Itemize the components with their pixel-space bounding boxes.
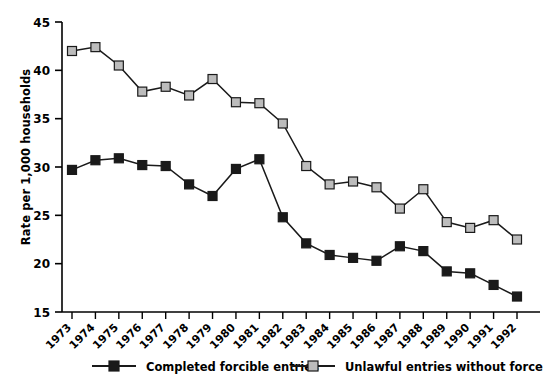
- legend-item-completed-forcible-entries[interactable]: Completed forcible entries: [92, 360, 319, 374]
- data-point-marker: [419, 185, 428, 194]
- x-axis-tick-label: 1990: [441, 321, 472, 352]
- series-unlawful-entries-without-force: [68, 43, 522, 244]
- x-axis-tick-label: 1982: [254, 321, 285, 352]
- data-point-marker: [489, 280, 498, 289]
- series-line: [72, 47, 517, 239]
- data-point-marker: [208, 75, 217, 84]
- x-axis-tick-label: 1983: [277, 321, 308, 352]
- y-axis-tick-label: 45: [33, 16, 50, 30]
- x-axis-tick-label: 1984: [301, 321, 332, 352]
- data-point-marker: [349, 177, 358, 186]
- x-axis-tick-label: 1976: [114, 321, 145, 352]
- data-point-marker: [231, 164, 240, 173]
- data-point-marker: [489, 216, 498, 225]
- data-point-marker: [302, 162, 311, 171]
- x-axis-tick-label: 1989: [418, 321, 449, 352]
- data-point-marker: [513, 235, 522, 244]
- line-chart-plot: 1520253035404519731974197519761977197819…: [0, 0, 549, 382]
- data-point-marker: [231, 98, 240, 107]
- data-point-marker: [395, 204, 404, 213]
- chart-container: Rate per 1,000 households 15202530354045…: [0, 0, 549, 382]
- legend-marker: [308, 361, 318, 371]
- data-point-marker: [372, 256, 381, 265]
- data-point-marker: [442, 267, 451, 276]
- data-point-marker: [419, 247, 428, 256]
- data-point-marker: [114, 61, 123, 70]
- data-point-marker: [185, 91, 194, 100]
- data-point-marker: [161, 82, 170, 91]
- data-point-marker: [68, 47, 77, 56]
- data-point-marker: [466, 223, 475, 232]
- y-axis-tick-label: 30: [33, 161, 50, 175]
- data-point-marker: [513, 292, 522, 301]
- x-axis-tick-label: 1979: [184, 321, 215, 352]
- data-point-marker: [255, 99, 264, 108]
- legend-item-unlawful-entries-without-force[interactable]: Unlawful entries without force: [291, 360, 543, 374]
- y-axis-tick-label: 15: [33, 306, 50, 320]
- x-axis-tick-label: 1974: [67, 321, 98, 352]
- data-point-marker: [91, 156, 100, 165]
- series-completed-forcible-entries: [68, 154, 522, 301]
- data-point-marker: [278, 119, 287, 128]
- data-point-marker: [255, 155, 264, 164]
- x-axis-tick-label: 1980: [207, 321, 238, 352]
- data-point-marker: [68, 165, 77, 174]
- x-axis-tick-label: 1978: [160, 321, 191, 352]
- x-axis-tick-label: 1975: [90, 321, 121, 352]
- x-axis-tick-label: 1977: [137, 321, 168, 352]
- x-axis-tick-label: 1988: [395, 321, 426, 352]
- data-point-marker: [325, 250, 334, 259]
- data-point-marker: [208, 192, 217, 201]
- data-point-marker: [466, 269, 475, 278]
- data-point-marker: [442, 218, 451, 227]
- x-axis-tick-label: 1992: [488, 321, 519, 352]
- data-point-marker: [114, 154, 123, 163]
- y-axis-tick-label: 35: [33, 112, 50, 126]
- legend-marker: [109, 361, 119, 371]
- x-axis-tick-label: 1991: [465, 321, 496, 352]
- y-axis-tick-label: 20: [33, 257, 50, 271]
- x-axis-tick-label: 1986: [348, 321, 379, 352]
- data-point-marker: [91, 43, 100, 52]
- y-axis-tick-label: 40: [33, 64, 50, 78]
- data-point-marker: [325, 180, 334, 189]
- data-point-marker: [138, 87, 147, 96]
- data-point-marker: [278, 213, 287, 222]
- x-axis-tick-label: 1981: [231, 321, 262, 352]
- data-point-marker: [185, 180, 194, 189]
- data-point-marker: [302, 239, 311, 248]
- x-axis-tick-label: 1985: [324, 321, 355, 352]
- x-axis-tick-label: 1973: [43, 321, 74, 352]
- data-point-marker: [161, 162, 170, 171]
- x-axis-tick-label: 1987: [371, 321, 402, 352]
- data-point-marker: [395, 242, 404, 251]
- y-axis-tick-label: 25: [33, 209, 50, 223]
- data-point-marker: [372, 183, 381, 192]
- legend-label[interactable]: Unlawful entries without force: [345, 360, 543, 374]
- data-point-marker: [138, 161, 147, 170]
- data-point-marker: [349, 253, 358, 262]
